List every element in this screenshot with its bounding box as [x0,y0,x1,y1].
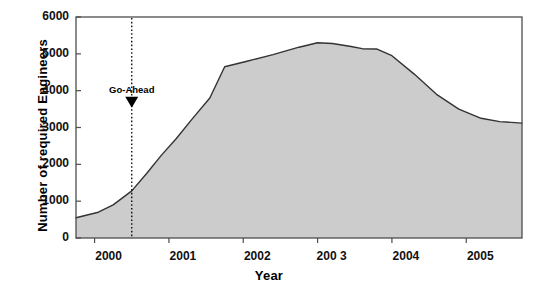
x-axis-tick-label: 2004 [371,249,441,263]
x-axis-tick-label: 2000 [74,249,144,263]
y-axis-tick-label: 1000 [23,193,69,207]
x-axis-tick-label: 2002 [222,249,292,263]
x-axis-tick-label: 200 3 [297,249,367,263]
x-axis-ticks [95,238,467,243]
go-ahead-annotation-label: Go-Ahead [87,84,177,95]
y-axis-tick-label: 6000 [23,9,69,23]
y-axis-tick-label: 3000 [23,120,69,134]
x-axis-tick-label: 2005 [445,249,515,263]
y-axis-tick-label: 4000 [23,83,69,97]
x-axis-title: Year [0,268,538,283]
y-axis-tick-label: 0 [23,230,69,244]
y-axis-tick-label: 2000 [23,156,69,170]
y-axis-tick-label: 5000 [23,46,69,60]
x-axis-tick-label: 2001 [148,249,218,263]
chart-figure: Go-Ahead Number of required Engineers Ye… [0,0,538,293]
